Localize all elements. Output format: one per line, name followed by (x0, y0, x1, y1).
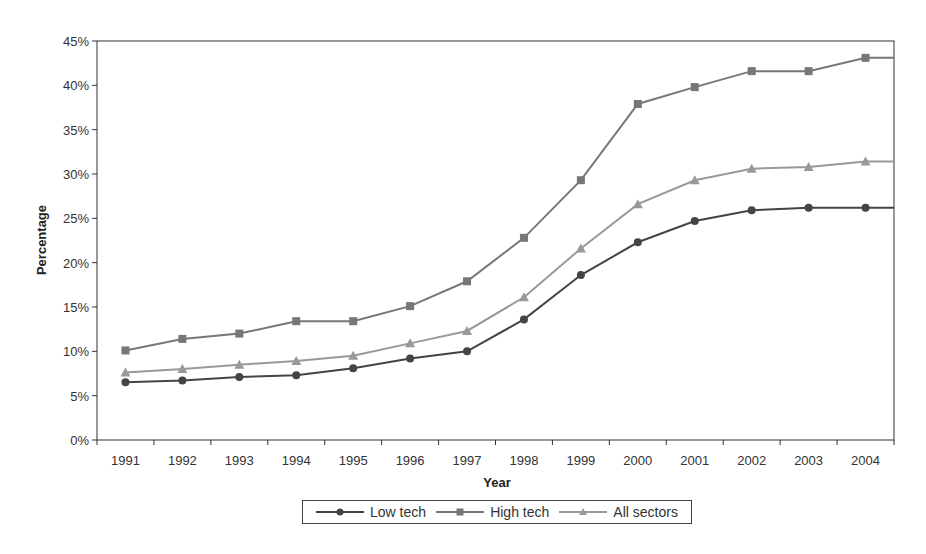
x-axis: 1991199219931994199519961997199819992000… (97, 440, 894, 468)
square-marker (577, 176, 585, 184)
circle-marker-icon (316, 506, 364, 518)
plot-border (97, 41, 894, 440)
x-tick-label: 1999 (566, 453, 595, 468)
circle-marker (748, 206, 756, 214)
triangle-marker-icon (559, 506, 607, 518)
square-marker (634, 100, 642, 108)
y-tick-label: 15% (63, 300, 89, 315)
circle-marker (349, 364, 357, 372)
x-tick-label: 1996 (396, 453, 425, 468)
y-axis: 0%5%10%15%20%25%30%35%40%45% (63, 34, 97, 448)
x-tick-label: 2003 (794, 453, 823, 468)
square-marker (520, 234, 528, 242)
square-marker (406, 302, 414, 310)
circle-marker (178, 377, 186, 385)
y-tick-label: 0% (70, 433, 89, 448)
circle-marker (691, 217, 699, 225)
y-tick-label: 20% (63, 256, 89, 271)
x-tick-label: 1997 (453, 453, 482, 468)
square-marker (178, 335, 186, 343)
x-tick-label: 1994 (282, 453, 311, 468)
plot-area (97, 41, 894, 440)
square-marker (463, 277, 471, 285)
y-tick-label: 35% (63, 123, 89, 138)
legend-item: High tech (436, 504, 549, 520)
y-tick-label: 25% (63, 211, 89, 226)
circle-marker (337, 509, 344, 516)
series-line (125, 162, 894, 373)
line-chart: 0%5%10%15%20%25%30%35%40%45% 19911992199… (0, 0, 926, 554)
series-low-tech (121, 204, 894, 387)
x-tick-label: 1992 (168, 453, 197, 468)
square-marker-icon (436, 506, 484, 518)
square-marker (748, 67, 756, 75)
square-marker (235, 330, 243, 338)
circle-marker (577, 271, 585, 279)
legend-label: Low tech (370, 504, 426, 520)
circle-marker (463, 347, 471, 355)
circle-marker (520, 315, 528, 323)
x-tick-label: 2001 (680, 453, 709, 468)
circle-marker (406, 354, 414, 362)
x-tick-label: 1998 (510, 453, 539, 468)
square-marker (805, 67, 813, 75)
y-tick-label: 30% (63, 167, 89, 182)
y-tick-label: 10% (63, 344, 89, 359)
y-tick-label: 45% (63, 34, 89, 49)
triangle-marker (462, 326, 472, 335)
y-tick-label: 40% (63, 78, 89, 93)
legend-label: High tech (490, 504, 549, 520)
circle-marker (121, 378, 129, 386)
circle-marker (862, 204, 870, 212)
square-marker (862, 54, 870, 62)
series-layer (120, 54, 894, 387)
legend-item: Low tech (316, 504, 426, 520)
square-marker (691, 83, 699, 91)
circle-marker (634, 238, 642, 246)
circle-marker (292, 371, 300, 379)
circle-marker (235, 373, 243, 381)
x-tick-label: 2002 (737, 453, 766, 468)
circle-marker (805, 204, 813, 212)
x-tick-label: 1993 (225, 453, 254, 468)
series-line (125, 208, 894, 383)
legend-label: All sectors (613, 504, 678, 520)
square-marker (349, 317, 357, 325)
x-tick-label: 1991 (111, 453, 140, 468)
square-marker (457, 509, 464, 516)
x-axis-title: Year (483, 475, 510, 490)
y-axis-title: Percentage (34, 205, 49, 275)
legend-item: All sectors (559, 504, 678, 520)
series-all-sectors (120, 157, 894, 377)
x-tick-label: 2000 (623, 453, 652, 468)
series-high-tech (121, 54, 894, 355)
legend: Low techHigh techAll sectors (302, 500, 692, 524)
square-marker (121, 346, 129, 354)
x-tick-label: 1995 (339, 453, 368, 468)
x-tick-label: 2004 (851, 453, 880, 468)
y-tick-label: 5% (70, 389, 89, 404)
square-marker (292, 317, 300, 325)
